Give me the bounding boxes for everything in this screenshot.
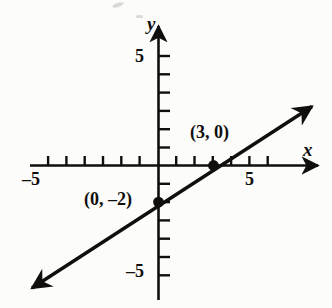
- y-axis: [159, 26, 171, 300]
- coordinate-plane-svg: [0, 0, 332, 308]
- x-tick-label-minus5: –5: [22, 170, 40, 188]
- x-tick-label-5: 5: [245, 170, 254, 188]
- x-axis: [30, 156, 318, 166]
- plotted-line: [32, 107, 312, 289]
- point-marker-x-intercept: [208, 160, 219, 171]
- point-marker-y-intercept: [153, 197, 164, 208]
- point-label-y-intercept: (0, –2): [84, 190, 132, 208]
- y-tick-label-5: 5: [135, 47, 144, 65]
- graph-figure: y x 5 –5 –5 5 (3, 0) (0, –2): [0, 0, 332, 308]
- y-tick-label-minus5: –5: [126, 262, 144, 280]
- y-axis-label: y: [147, 14, 155, 33]
- point-label-x-intercept: (3, 0): [190, 123, 229, 141]
- x-axis-label: x: [303, 140, 313, 159]
- scan-artifact-speck: [136, 15, 143, 18]
